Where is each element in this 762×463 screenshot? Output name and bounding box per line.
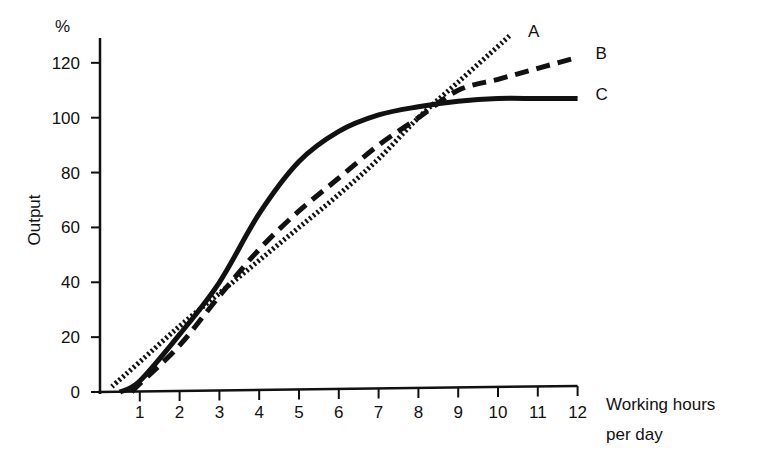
x-tick-label: 12 (568, 403, 587, 422)
x-axis: 123456789101112 (98, 386, 587, 422)
y-tick-label: 120 (52, 54, 80, 73)
x-tick-label: 9 (453, 403, 462, 422)
series-label-b: B (596, 44, 607, 63)
y-tick-label: 40 (61, 273, 80, 292)
x-tick-label: 5 (294, 403, 303, 422)
x-tick-label: 8 (414, 403, 423, 422)
plot-lines (112, 35, 578, 392)
series-line-a (112, 35, 510, 386)
x-tick-label: 3 (215, 403, 224, 422)
series-labels: ABC (528, 22, 608, 104)
x-tick-label: 10 (489, 403, 508, 422)
x-axis-title-line2: per day (606, 425, 663, 444)
series-label-a: A (528, 22, 540, 41)
y-tick-label: 0 (71, 383, 80, 402)
series-line-b (132, 57, 578, 392)
x-tick-label: 6 (334, 403, 343, 422)
series-line-c (120, 98, 578, 392)
chart: 020406080100120 123456789101112 ABC % Ou… (0, 0, 762, 463)
series-label-c: C (596, 85, 608, 104)
x-axis-title-line1: Working hours (606, 395, 715, 414)
y-tick-label: 60 (61, 218, 80, 237)
x-tick-label: 2 (175, 403, 184, 422)
x-tick-label: 7 (374, 403, 383, 422)
y-tick-label: 80 (61, 164, 80, 183)
y-axis-unit: % (55, 17, 70, 36)
y-axis-title: Output (25, 194, 44, 245)
x-tick-label: 11 (529, 403, 547, 422)
y-tick-label: 20 (61, 328, 80, 347)
x-tick-label: 4 (254, 403, 263, 422)
y-axis: 020406080100120 (52, 38, 100, 402)
x-tick-label: 1 (135, 403, 144, 422)
y-tick-label: 100 (52, 109, 80, 128)
